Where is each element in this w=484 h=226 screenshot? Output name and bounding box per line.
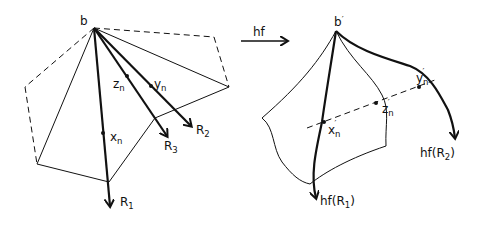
dashed-boundary: [25, 28, 229, 164]
diagram-canvas: b zn yn xn R1 R2 R3 hf b′ xn′: [0, 0, 484, 226]
point-yn: [149, 84, 153, 88]
label-hf: hf: [253, 25, 266, 39]
label-b-prime: b′: [334, 15, 344, 29]
left-figure: b zn yn xn R1 R2 R3: [25, 14, 229, 211]
rays: [94, 28, 191, 206]
point-xn: [101, 131, 105, 135]
point-zn-prime: [374, 101, 378, 105]
point-zn: [125, 74, 129, 78]
ray-r2: [94, 28, 191, 126]
label-xn: xn: [110, 130, 123, 146]
label-r3: R3: [164, 139, 178, 155]
point-xn-prime: [322, 120, 326, 124]
label-b: b: [80, 14, 88, 28]
curve-hf-r1: [314, 31, 336, 198]
curve-hf-r2: [336, 31, 455, 138]
label-zn-prime: zn′: [382, 98, 394, 118]
point-yn-prime: [417, 85, 421, 89]
label-xn-prime: xn′: [328, 119, 341, 139]
solid-edges: [37, 28, 229, 182]
label-r2: R2: [196, 123, 210, 139]
label-hf-r1: hf(R1): [320, 194, 355, 210]
map-arrow: hf: [241, 25, 287, 41]
label-r1: R1: [120, 195, 134, 211]
label-yn: yn: [154, 77, 167, 93]
right-figure: b′ xn′ zn′ yn′ hf(R1) hf(R2): [262, 15, 455, 210]
label-hf-r2: hf(R2): [420, 146, 455, 162]
label-zn: zn: [113, 77, 125, 93]
